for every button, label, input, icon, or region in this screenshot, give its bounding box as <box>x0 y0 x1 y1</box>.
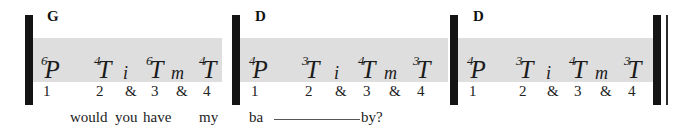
barline-final-thin <box>666 15 668 105</box>
string-number-m1-e6: 4 <box>199 53 206 68</box>
hand-symbol-m2-e5: m <box>384 63 397 83</box>
beat-count-m2-4: 3 <box>363 84 371 99</box>
finger-symbol-m1-e4: 6T <box>146 57 163 82</box>
beat-count-m2-1: 1 <box>251 84 259 99</box>
lyric-row-measure-2: ba by? <box>241 110 441 132</box>
finger-symbol-m2-e1: 4P <box>249 57 268 82</box>
hand-symbol-m3-e3: i <box>546 63 551 83</box>
finger-symbol-m1-e2: 4T <box>94 57 111 82</box>
string-number-m3-e2: 3 <box>516 53 523 68</box>
beat-count-m3-5: & <box>600 84 612 99</box>
string-number-m3-e6: 3 <box>624 53 631 68</box>
count-row-measure-2: 1 2 & 3 & 4 <box>241 84 441 104</box>
string-number-m2-e6: 3 <box>413 53 420 68</box>
lyric-m1-3: you <box>115 110 138 125</box>
finger-symbol-m3-e6: 3T <box>624 57 641 82</box>
count-row-measure-1: 1 2 & 3 & 4 <box>33 84 223 104</box>
beat-count-m2-6: 4 <box>417 84 425 99</box>
string-number-m1-e4: 6 <box>146 53 153 68</box>
measure-3: D 4P 3T i 4T m 3T 1 2 & 3 & 4 <box>459 0 649 137</box>
lyric-m2-1: ba <box>249 110 263 125</box>
string-number-m2-e1: 4 <box>249 53 256 68</box>
finger-symbol-m3-e5: m <box>598 64 608 82</box>
music-notation-sheet: G 6P 4T i 6T m 4T 1 2 & 3 & 4 would you … <box>0 0 686 137</box>
beat-count-m1-1: 1 <box>43 84 51 99</box>
hand-symbol-m2-e3: i <box>334 63 339 83</box>
hand-symbol-m1-e5: m <box>171 63 184 83</box>
hand-symbol-m3-e5: m <box>595 63 608 83</box>
finger-symbol-m3-e4: 4T <box>569 57 586 82</box>
beat-count-m1-3: & <box>125 84 137 99</box>
measure-1: G 6P 4T i 6T m 4T 1 2 & 3 & 4 would you … <box>33 0 223 137</box>
finger-symbol-m1-e6: 4T <box>199 57 216 82</box>
finger-symbol-m1-e1: 6P <box>41 57 60 82</box>
beat-count-m2-3: & <box>335 84 347 99</box>
finger-row-measure-3: 4P 3T i 4T m 3T <box>459 44 649 82</box>
finger-row-measure-2: 4P 3T i 4T m 3T <box>241 44 441 82</box>
beat-count-m3-1: 1 <box>469 84 477 99</box>
lyric-m1-2: would <box>70 110 108 125</box>
chord-label-measure-1: G <box>47 8 59 25</box>
barline-1 <box>232 15 240 105</box>
finger-row-measure-1: 6P 4T i 6T m 4T <box>33 44 223 82</box>
beat-count-m1-2: 2 <box>96 84 104 99</box>
beat-count-m3-6: 4 <box>628 84 636 99</box>
finger-symbol-m2-e2: 3T <box>302 57 319 82</box>
string-number-m3-e1: 4 <box>467 53 474 68</box>
beat-count-m3-4: 3 <box>574 84 582 99</box>
finger-symbol-m3-e3: i <box>549 64 551 82</box>
lyric-m1-6: my <box>199 110 218 125</box>
finger-symbol-m3-e1: 4P <box>467 57 486 82</box>
finger-symbol-m2-e3: i <box>337 64 339 82</box>
string-number-m1-e1: 6 <box>41 53 48 68</box>
hand-symbol-m1-e3: i <box>123 63 128 83</box>
finger-symbol-m1-e3: i <box>126 64 128 82</box>
chord-label-measure-2: D <box>255 8 266 25</box>
beat-count-m3-2: 2 <box>519 84 527 99</box>
finger-symbol-m2-e6: 3T <box>413 57 430 82</box>
barline-2 <box>450 15 458 105</box>
chord-label-measure-3: D <box>473 8 484 25</box>
finger-symbol-m2-e4: 4T <box>358 57 375 82</box>
count-row-measure-3: 1 2 & 3 & 4 <box>459 84 649 104</box>
lyric-row-measure-1: would you have my <box>33 110 223 132</box>
finger-symbol-m1-e5: m <box>174 64 184 82</box>
beat-count-m2-5: & <box>389 84 401 99</box>
lyric-extender-line <box>274 119 360 120</box>
barline-start <box>25 15 33 105</box>
lyric-m2-4: by? <box>361 110 383 125</box>
lyric-m1-4: have <box>143 110 171 125</box>
beat-count-m1-5: & <box>176 84 188 99</box>
beat-count-m1-6: 4 <box>203 84 211 99</box>
beat-count-m2-2: 2 <box>305 84 313 99</box>
string-number-m2-e4: 4 <box>358 53 365 68</box>
finger-symbol-m3-e2: 3T <box>516 57 533 82</box>
beat-count-m3-3: & <box>547 84 559 99</box>
barline-final-thick <box>653 15 661 105</box>
beat-count-m1-4: 3 <box>151 84 159 99</box>
string-number-m2-e2: 3 <box>302 53 309 68</box>
finger-symbol-m2-e5: m <box>387 64 397 82</box>
string-number-m1-e2: 4 <box>94 53 101 68</box>
string-number-m3-e4: 4 <box>569 53 576 68</box>
measure-2: D 4P 3T i 4T m 3T 1 2 & 3 & 4 ba by? <box>241 0 441 137</box>
